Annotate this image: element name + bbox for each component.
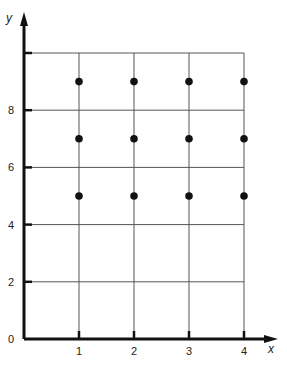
x-tick-label: 1 bbox=[76, 345, 82, 357]
axes: y x bbox=[5, 11, 278, 356]
data-point bbox=[185, 192, 193, 200]
y-tick-label: 4 bbox=[8, 219, 14, 231]
tick-labels: 024681234 bbox=[8, 104, 247, 357]
y-tick-label: 0 bbox=[8, 333, 14, 345]
x-tick-label: 4 bbox=[241, 345, 247, 357]
data-point bbox=[185, 135, 193, 143]
y-axis-arrow-icon bbox=[20, 12, 28, 26]
x-tick-label: 2 bbox=[131, 345, 137, 357]
scatter-chart: y x 024681234 bbox=[0, 0, 287, 365]
y-tick-label: 2 bbox=[8, 276, 14, 288]
data-point bbox=[75, 78, 83, 86]
data-point bbox=[185, 78, 193, 86]
y-tick-label: 6 bbox=[8, 161, 14, 173]
x-axis-label: x bbox=[267, 342, 275, 356]
y-tick-label: 8 bbox=[8, 104, 14, 116]
data-point bbox=[130, 135, 138, 143]
data-point bbox=[75, 192, 83, 200]
x-tick-label: 3 bbox=[186, 345, 192, 357]
data-points bbox=[75, 78, 248, 200]
data-point bbox=[240, 78, 248, 86]
data-point bbox=[75, 135, 83, 143]
y-axis-label: y bbox=[5, 11, 13, 25]
data-point bbox=[130, 192, 138, 200]
data-point bbox=[240, 192, 248, 200]
data-point bbox=[240, 135, 248, 143]
data-point bbox=[130, 78, 138, 86]
